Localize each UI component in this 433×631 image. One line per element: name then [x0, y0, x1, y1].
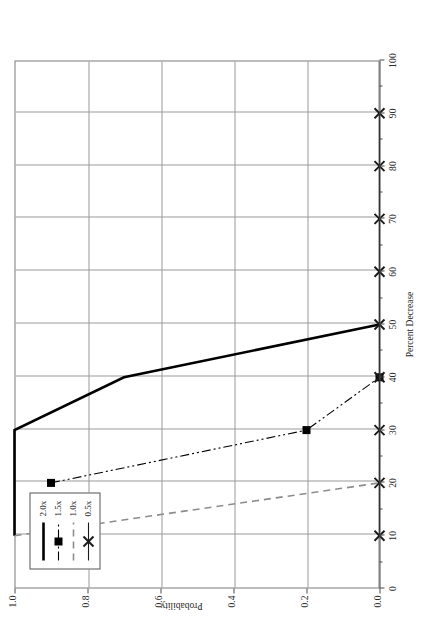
x-axis-minor-tick — [379, 508, 382, 509]
x-axis-minor-tick — [379, 297, 382, 298]
x-axis-tick-label: 30 — [387, 410, 397, 450]
y-axis-tick — [306, 588, 307, 593]
x-axis-tick-label: 0 — [387, 568, 397, 608]
x-axis-tick-label: 20 — [387, 462, 397, 502]
x-axis-minor-tick — [379, 138, 382, 139]
series-line-1-5x — [51, 377, 380, 483]
x-axis-minor-tick — [379, 349, 382, 350]
rotated-figure-container: 0102030405060708090100 Percent Decrease … — [0, 0, 433, 631]
series-marker-square — [302, 426, 310, 434]
y-axis-tick — [233, 588, 234, 593]
legend-swatch-1-5x — [51, 521, 65, 561]
y-axis-tick — [14, 588, 15, 593]
legend-swatch-0-5x — [81, 521, 95, 561]
y-axis-tick-label: 0.8 — [80, 595, 90, 631]
x-axis-minor-tick — [379, 244, 382, 245]
legend-item-0-5x: 0.5x — [80, 500, 95, 561]
legend-swatch-1-0x — [66, 521, 80, 561]
x-axis-tick — [379, 429, 384, 430]
x-axis-tick-label: 50 — [387, 304, 397, 344]
x-axis-tick-label: 70 — [387, 198, 397, 238]
legend-label: 1.0x — [68, 500, 77, 516]
legend-item-2-0x: 2.0x — [35, 500, 50, 561]
x-axis-minor-tick — [379, 191, 382, 192]
x-axis-tick — [379, 59, 384, 60]
legend-label: 0.5x — [83, 500, 92, 516]
chart-figure: 0102030405060708090100 Percent Decrease … — [0, 0, 433, 631]
y-axis-tick — [379, 588, 380, 593]
y-axis-tick — [87, 588, 88, 593]
x-axis-tick — [379, 481, 384, 482]
legend-label: 2.0x — [38, 500, 47, 516]
x-axis-tick-label: 60 — [387, 251, 397, 291]
x-axis-title: Percent Decrease — [404, 60, 414, 588]
legend-swatch-2-0x — [36, 521, 50, 561]
y-axis-tick-label: 1.0 — [7, 595, 17, 631]
x-axis-tick — [379, 112, 384, 113]
x-axis-tick-label: 90 — [387, 93, 397, 133]
x-axis-tick — [379, 165, 384, 166]
legend-item-1-0x: 1.0x — [65, 500, 80, 561]
series-marker-square — [47, 478, 55, 486]
y-axis-tick-label: 0.0 — [372, 595, 382, 631]
x-axis-minor-tick — [379, 85, 382, 86]
x-axis-minor-tick — [379, 561, 382, 562]
x-axis-minor-tick — [379, 402, 382, 403]
y-axis-tick — [160, 588, 161, 593]
y-axis-tick-label: 0.2 — [299, 595, 309, 631]
x-axis-tick-label: 100 — [387, 40, 397, 80]
x-axis-tick-label: 80 — [387, 146, 397, 186]
x-axis-minor-tick — [379, 455, 382, 456]
legend: 2.0x1.5x1.0x0.5x — [29, 492, 100, 569]
legend-item-1-5x: 1.5x — [50, 500, 65, 561]
x-axis-tick-label: 10 — [387, 515, 397, 555]
y-axis-title: Probability — [121, 600, 241, 610]
x-axis-tick-label: 40 — [387, 357, 397, 397]
x-axis-tick — [379, 323, 384, 324]
x-axis-tick — [379, 534, 384, 535]
x-axis-tick — [379, 217, 384, 218]
x-axis-tick — [379, 270, 384, 271]
x-axis-tick — [379, 376, 384, 377]
legend-label: 1.5x — [53, 500, 62, 516]
